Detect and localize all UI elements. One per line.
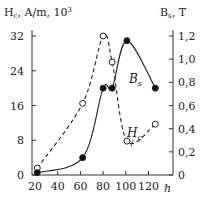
x-tick-label: 100 (115, 180, 136, 193)
bs-data-point (100, 85, 106, 91)
hc-data-point (100, 33, 106, 39)
x-tick-label: 60 (73, 180, 87, 193)
right-axis-label: Bs, T (160, 6, 187, 20)
bs-curve (37, 41, 155, 173)
x-tick-label: 120 (138, 180, 159, 193)
x-tick-label: 40 (51, 180, 65, 193)
left-tick-label: 24 (10, 65, 24, 78)
left-tick-label: 32 (10, 30, 24, 43)
right-tick-label: 0,6 (178, 100, 196, 113)
bs-data-point (80, 155, 86, 161)
left-axis-label: Hc, A/m, 103 (4, 6, 72, 20)
left-tick-label: 8 (17, 134, 24, 147)
hc-data-point (80, 100, 86, 106)
chart: 204060801001200816243200,20,40,60,81,01,… (0, 0, 200, 205)
x-tick-label: 80 (96, 180, 110, 193)
right-tick-label: 1,2 (178, 30, 196, 43)
left-tick-label: 16 (10, 100, 24, 113)
bs-data-point (152, 85, 158, 91)
series (34, 33, 158, 176)
hc-curve-label: Hc (126, 126, 142, 142)
bs-data-point (109, 85, 115, 91)
x-tick-label: 20 (28, 180, 42, 193)
bs-data-point (34, 170, 40, 176)
bs-curve-label: Bs (128, 72, 142, 88)
right-tick-label: 1,0 (178, 53, 196, 66)
right-tick-label: 0,4 (178, 123, 196, 136)
right-tick-label: 0,8 (178, 76, 196, 89)
x-axis-label: h (164, 182, 171, 195)
ticks (32, 36, 173, 175)
left-tick-label: 0 (17, 169, 24, 182)
hc-data-point (152, 121, 158, 127)
right-tick-label: 0,2 (178, 146, 196, 159)
bs-data-point (124, 38, 130, 44)
chart-svg: 204060801001200816243200,20,40,60,81,01,… (0, 0, 200, 205)
right-tick-label: 0 (178, 169, 185, 182)
hc-data-point (109, 59, 115, 65)
